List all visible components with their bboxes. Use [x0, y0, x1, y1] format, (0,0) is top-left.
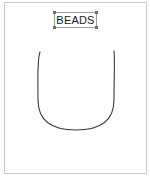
- u-curve-shape[interactable]: [0, 0, 150, 176]
- curve-path: [38, 51, 115, 130]
